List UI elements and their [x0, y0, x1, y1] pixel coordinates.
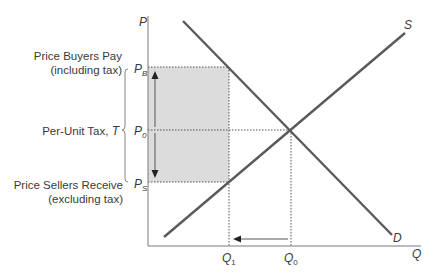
- supply-label: S: [404, 18, 412, 32]
- arrow-left-icon: [233, 236, 241, 243]
- pb-label: PB: [134, 62, 148, 78]
- buyers-pay-label: Price Buyers Pay: [34, 50, 122, 62]
- x-axis-label: Q: [412, 247, 421, 261]
- tax-incidence-diagram: P Q S D PB P0 PS Q1 Q0 Price Buyers Pay …: [0, 0, 447, 278]
- tax-bracket: [122, 69, 128, 182]
- per-unit-tax-label: Per-Unit Tax, T: [42, 124, 120, 138]
- q1-label: Q1: [222, 251, 236, 267]
- p0-label: P0: [134, 124, 147, 140]
- demand-label: D: [393, 231, 402, 245]
- sellers-receive-label: Price Sellers Receive: [14, 179, 123, 191]
- ps-label: PS: [134, 177, 148, 193]
- buyers-pay-sublabel: (including tax): [50, 64, 122, 76]
- tax-revenue-region: [148, 67, 229, 182]
- q0-label: Q0: [284, 251, 298, 267]
- y-axis-label: P: [139, 15, 147, 29]
- sellers-receive-sublabel: (excluding tax): [48, 193, 123, 205]
